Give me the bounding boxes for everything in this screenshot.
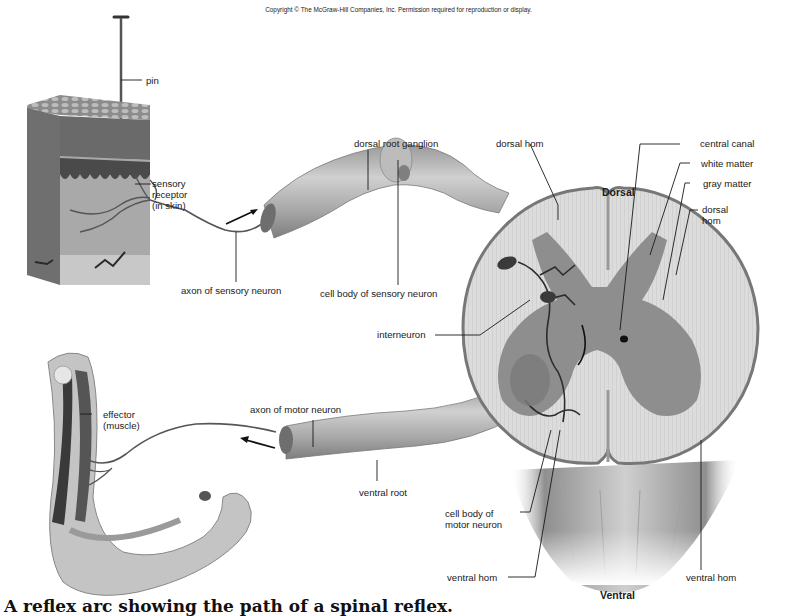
central-canal-dot [620, 336, 628, 343]
label-dorsal-root-ganglion: dorsal root ganglion [354, 138, 438, 149]
figure-caption: A reflex arc showing the path of a spina… [4, 596, 453, 616]
label-cell-body-sensory-neuron: cell body of sensory neuron [320, 288, 437, 299]
label-white-matter: white matter [701, 158, 753, 169]
label-ventral-orientation: Ventral [600, 590, 635, 601]
label-ventral-root: ventral root [359, 487, 407, 498]
label-dorsal-horn-right: dorsal hom [702, 204, 728, 226]
label-line: (in skin) [152, 200, 187, 211]
motor-signal-arrow [246, 440, 275, 448]
label-axon-sensory-neuron: axon of sensory neuron [181, 285, 281, 296]
sensory-signal-arrow [226, 211, 254, 224]
skin-block-illustration [27, 95, 150, 285]
label-effector-muscle: effector (muscle) [103, 409, 140, 431]
copyright-notice: Copyright © The McGraw-Hill Companies, I… [0, 6, 797, 13]
motor-axon-path [80, 424, 276, 488]
label-line: motor neuron [445, 519, 502, 530]
label-line: effector [103, 409, 140, 420]
label-ventral-horn-right: ventral hom [686, 572, 736, 583]
label-gray-matter: gray matter [703, 178, 752, 189]
label-line: hom [702, 215, 728, 226]
label-sensory-receptor: sensory receptor (in skin) [152, 178, 187, 211]
spinal-cord-cross-section [463, 188, 758, 464]
label-line: (muscle) [103, 420, 140, 431]
dorsal-root-illustration [257, 138, 509, 238]
label-interneuron: interneuron [377, 329, 426, 340]
label-axon-motor-neuron: axon of motor neuron [250, 404, 341, 415]
label-pin: pin [146, 75, 159, 86]
label-line: receptor [152, 189, 187, 200]
label-line: dorsal [702, 204, 728, 215]
label-central-canal: central canal [700, 138, 754, 149]
label-line: sensory [152, 178, 187, 189]
label-line: cell body of [445, 508, 502, 519]
label-cell-body-motor-neuron: cell body of motor neuron [445, 508, 502, 530]
label-dorsal-horn-left: dorsal hom [496, 138, 543, 149]
label-dorsal-orientation: Dorsal [602, 187, 635, 198]
arm-illustration [48, 353, 251, 595]
label-ventral-horn-left: ventral hom [447, 572, 497, 583]
